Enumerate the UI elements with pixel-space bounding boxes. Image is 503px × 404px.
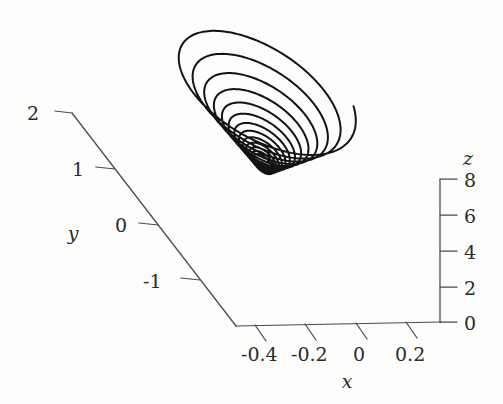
x-tick-label-neg04: -0.4: [241, 343, 278, 365]
y-tick-label-2: 2: [27, 102, 39, 124]
z-tick-label-0: 0: [464, 312, 476, 334]
z-ticks: [440, 179, 457, 322]
y-tick-0: [139, 223, 158, 225]
x-tick-02: [406, 322, 417, 338]
trajectory-curve: [179, 31, 356, 174]
y-ticks: [55, 111, 200, 280]
z-axis-label: z: [462, 147, 474, 169]
y-tick-label-0: 0: [115, 214, 127, 236]
plot-svg: 2 1 0 -1 y -0.4 -0.2 0 0.2 x 8 6 4 2 0 z: [0, 0, 503, 404]
plot-canvas: 2 1 0 -1 y -0.4 -0.2 0 0.2 x 8 6 4 2 0 z: [0, 0, 503, 404]
x-tick-neg04: [255, 325, 266, 341]
x-axis-label: x: [342, 370, 353, 392]
z-tick-label-6: 6: [464, 205, 476, 227]
z-tick-label-2: 2: [464, 277, 476, 299]
y-tick-2: [55, 111, 72, 113]
x-tick-label-neg02: -0.2: [291, 343, 328, 365]
y-tick-label-neg1: -1: [143, 270, 162, 292]
y-axis-line: [72, 113, 236, 326]
y-tick-neg1: [181, 278, 200, 280]
z-tick-label-4: 4: [464, 241, 476, 263]
y-tick-label-1: 1: [72, 158, 84, 180]
x-tick-label-02: 0.2: [395, 343, 425, 365]
y-tick-1: [96, 167, 115, 169]
x-tick-0: [356, 323, 367, 339]
spiral-trajectory: [179, 31, 356, 174]
x-tick-neg02: [305, 324, 316, 340]
x-tick-label-0: 0: [353, 343, 365, 365]
axes-group: 2 1 0 -1 y -0.4 -0.2 0 0.2 x 8 6 4 2 0 z: [27, 102, 476, 392]
x-axis-line: [236, 322, 441, 326]
z-tick-label-8: 8: [464, 169, 476, 191]
y-axis-label: y: [67, 222, 79, 244]
